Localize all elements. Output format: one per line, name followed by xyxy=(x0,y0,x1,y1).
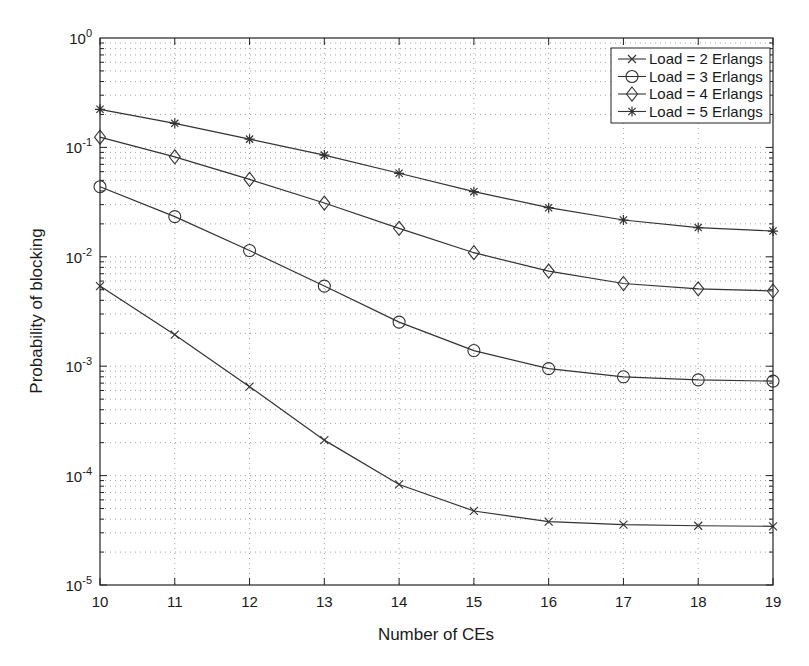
y-tick-base: 10 xyxy=(66,249,83,266)
star-marker-icon xyxy=(245,134,255,144)
legend-label: Load = 5 Erlangs xyxy=(649,103,763,120)
x-tick-label: 16 xyxy=(540,593,557,610)
x-tick-label: 19 xyxy=(765,593,782,610)
series-line xyxy=(100,286,773,526)
star-marker-icon xyxy=(394,168,404,178)
series-line xyxy=(100,137,773,291)
series-3 xyxy=(95,130,779,298)
cross-marker-icon xyxy=(395,480,403,488)
y-axis-tick-labels: 10010-110-210-310-410-5 xyxy=(66,27,92,594)
star-marker-icon xyxy=(627,107,637,117)
series-2 xyxy=(94,181,779,387)
y-tick-label: 10-3 xyxy=(66,355,92,375)
y-tick-label: 100 xyxy=(69,27,92,47)
y-tick-label: 10-4 xyxy=(66,465,92,485)
x-axis-title: Number of CEs xyxy=(378,625,494,644)
legend-label: Load = 3 Erlangs xyxy=(649,68,763,85)
x-tick-label: 15 xyxy=(466,593,483,610)
chart: 10111213141516171819 10010-110-210-310-4… xyxy=(0,0,809,666)
star-marker-icon xyxy=(618,215,628,225)
legend-label: Load = 2 Erlangs xyxy=(649,50,763,67)
cross-marker-icon xyxy=(320,436,328,444)
y-tick-base: 10 xyxy=(69,30,86,47)
x-tick-label: 12 xyxy=(241,593,258,610)
y-tick-base: 10 xyxy=(66,577,83,594)
star-marker-icon xyxy=(170,118,180,128)
y-tick-exponent: -5 xyxy=(82,574,92,586)
series-line xyxy=(100,187,773,381)
legend: Load = 2 ErlangsLoad = 3 ErlangsLoad = 4… xyxy=(611,48,770,123)
series-1 xyxy=(96,282,777,530)
x-tick-label: 13 xyxy=(316,593,333,610)
y-tick-exponent: -2 xyxy=(82,246,92,258)
x-tick-label: 11 xyxy=(167,593,183,610)
plot-series xyxy=(94,104,779,530)
x-axis-tick-labels: 10111213141516171819 xyxy=(92,593,782,610)
y-tick-exponent: -1 xyxy=(82,136,92,148)
star-marker-icon xyxy=(544,203,554,213)
y-tick-base: 10 xyxy=(66,468,83,485)
y-tick-exponent: -4 xyxy=(82,465,92,477)
y-tick-exponent: -3 xyxy=(82,355,92,367)
y-axis-title: Probability of blocking xyxy=(27,228,46,393)
series-line xyxy=(100,109,773,231)
series-4 xyxy=(95,104,778,236)
cross-marker-icon xyxy=(171,331,179,339)
star-marker-icon xyxy=(319,150,329,160)
x-tick-label: 17 xyxy=(615,593,632,610)
x-tick-label: 14 xyxy=(391,593,408,610)
star-marker-icon xyxy=(693,223,703,233)
legend-label: Load = 4 Erlangs xyxy=(649,85,763,102)
x-tick-label: 18 xyxy=(690,593,707,610)
y-tick-label: 10-5 xyxy=(66,574,92,594)
y-tick-label: 10-2 xyxy=(66,246,92,266)
y-tick-exponent: 0 xyxy=(86,27,92,39)
star-marker-icon xyxy=(469,187,479,197)
x-tick-label: 10 xyxy=(92,593,109,610)
y-tick-base: 10 xyxy=(66,139,83,156)
y-tick-base: 10 xyxy=(66,358,83,375)
y-tick-label: 10-1 xyxy=(66,136,92,156)
